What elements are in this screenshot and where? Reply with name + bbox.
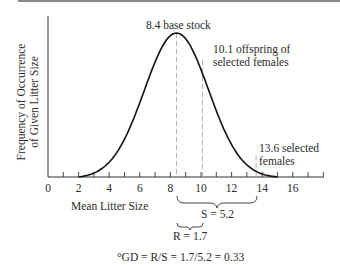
x-tick-label: 10	[195, 182, 207, 194]
x-ticks	[63, 172, 323, 177]
label-base-stock: 8.4 base stock	[146, 19, 211, 31]
x-tick-label: 16	[287, 182, 299, 194]
formula: °GD = R/S = 1.7/5.2 = 0.33	[117, 251, 244, 263]
x-tick-label: 6	[137, 182, 143, 194]
x-tick-label: 4	[106, 182, 112, 194]
y-axis-label-line1: Frequency of Occurrence	[15, 44, 28, 161]
label-offspring-line2: selected females	[213, 56, 289, 68]
litter-size-chart: 0246810121416 8.4 base stock 10.1 offspr…	[0, 0, 340, 265]
label-selected-line2: females	[259, 155, 295, 167]
x-tick-labels: 0246810121416	[45, 182, 299, 194]
x-tick-label: 0	[45, 182, 51, 194]
x-tick-label: 12	[226, 182, 238, 194]
x-tick-label: 8	[168, 182, 174, 194]
brace-r	[177, 223, 203, 230]
y-axis-label-line2: of Given Litter Size	[28, 56, 40, 148]
label-s: S = 5.2	[201, 208, 234, 220]
x-axis-label: Mean Litter Size	[71, 200, 148, 212]
top-border-bar	[18, 0, 340, 2]
x-tick-label: 2	[76, 182, 82, 194]
label-selected-line1: 13.6 selected	[259, 142, 319, 154]
label-offspring-line1: 10.1 offspring of	[213, 43, 291, 56]
label-r: R = 1.7	[173, 230, 208, 242]
x-tick-label: 14	[256, 182, 268, 194]
brace-s	[177, 196, 257, 208]
